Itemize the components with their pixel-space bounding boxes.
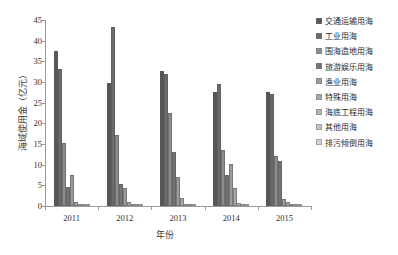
x-axis-tick-label: 2014: [201, 213, 261, 223]
y-axis-tick-label: 15: [4, 139, 42, 149]
legend-item: 渔业用海: [316, 74, 398, 89]
bar: [70, 175, 74, 206]
legend-swatch-icon: [316, 18, 322, 24]
legend-item: 围海造地用海: [316, 43, 398, 58]
legend-item-label: 排污倾倒用海: [325, 137, 373, 148]
y-axis-tick-label: 5: [4, 180, 42, 190]
x-axis-tick-mark: [98, 206, 99, 210]
x-axis-tick-label: 2011: [42, 213, 102, 223]
y-axis-tick-label: 0: [4, 201, 42, 211]
legend-swatch-icon: [316, 78, 322, 84]
chart-legend: 交通运输用海工业用海围海造地用海旅游娱乐用海渔业用海特殊用海海底工程用海其他用海…: [316, 13, 398, 150]
y-axis-tick-label: 40: [4, 36, 42, 46]
legend-item: 交通运输用海: [316, 13, 398, 28]
y-axis-tick-label: 45: [4, 15, 42, 25]
legend-item-label: 特殊用海: [325, 91, 357, 102]
legend-swatch-icon: [316, 139, 322, 145]
legend-item-label: 渔业用海: [325, 76, 357, 87]
x-axis-line: [45, 206, 312, 207]
legend-item: 排污倾倒用海: [316, 135, 398, 150]
x-axis-tick-mark: [258, 206, 259, 210]
legend-swatch-icon: [316, 94, 322, 100]
y-axis-tick-label: 30: [4, 77, 42, 87]
bar: [245, 204, 249, 206]
legend-item-label: 其他用海: [325, 121, 357, 132]
x-axis-tick-label: 2012: [95, 213, 155, 223]
legend-swatch-icon: [316, 109, 322, 115]
bar: [298, 204, 302, 206]
legend-item: 特殊用海: [316, 89, 398, 104]
bar: [86, 204, 90, 206]
legend-item-label: 旅游娱乐用海: [325, 61, 373, 72]
y-axis-tick-label: 10: [4, 160, 42, 170]
legend-swatch-icon: [316, 63, 322, 69]
x-axis-tick-mark: [151, 206, 152, 210]
y-axis-tick-label: 25: [4, 98, 42, 108]
x-axis-tick-mark: [311, 206, 312, 210]
legend-swatch-icon: [316, 124, 322, 130]
x-axis-tick-mark: [205, 206, 206, 210]
x-axis-tick-label: 2013: [148, 213, 208, 223]
y-axis-tick-label: 35: [4, 56, 42, 66]
legend-item: 海底工程用海: [316, 104, 398, 119]
plot-area: 051015202530354045 20112012201320142015: [45, 20, 311, 206]
x-axis-tick-label: 2015: [254, 213, 314, 223]
bars-layer: [45, 20, 311, 206]
legend-item-label: 交通运输用海: [325, 15, 373, 26]
x-axis-title: 年份: [0, 228, 330, 241]
bar-chart: 海域使用金（亿元） 051015202530354045 20112012201…: [0, 0, 398, 255]
legend-swatch-icon: [316, 33, 322, 39]
legend-item-label: 海底工程用海: [325, 106, 373, 117]
legend-item-label: 工业用海: [325, 30, 357, 41]
x-axis-tick-mark: [45, 206, 46, 210]
y-axis-tick-label: 20: [4, 118, 42, 128]
legend-item: 工业用海: [316, 28, 398, 43]
bar: [192, 204, 196, 206]
legend-item-label: 围海造地用海: [325, 45, 373, 56]
legend-swatch-icon: [316, 48, 322, 54]
legend-item: 其他用海: [316, 119, 398, 134]
bar: [139, 204, 143, 206]
legend-item: 旅游娱乐用海: [316, 59, 398, 74]
